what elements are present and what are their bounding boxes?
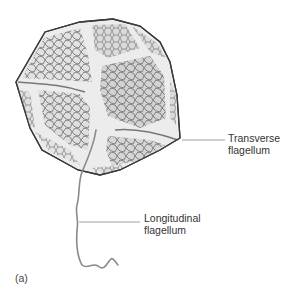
transverse-label-line2: flagellum xyxy=(228,144,280,156)
longitudinal-label-line2: flagellum xyxy=(144,224,201,236)
cell-body xyxy=(16,19,180,175)
transverse-label-line1: Transverse xyxy=(228,132,280,144)
transverse-flagellum-label: Transverse flagellum xyxy=(228,132,280,156)
longitudinal-label-line1: Longitudinal xyxy=(144,212,201,224)
longitudinal-flagellum-label: Longitudinal flagellum xyxy=(144,212,201,236)
panel-label: (a) xyxy=(15,272,28,284)
